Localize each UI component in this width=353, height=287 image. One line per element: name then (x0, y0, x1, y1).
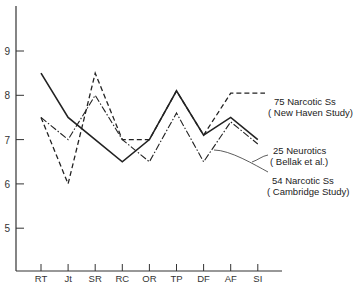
y-tick-label: 8 (4, 90, 10, 101)
y-tick-label: 6 (4, 179, 10, 190)
y-tick-label: 5 (4, 223, 10, 234)
x-tick-label: RC (115, 273, 129, 284)
series-lines (41, 73, 265, 184)
legend-new-haven: 75 Narcotic Ss ( New Haven Study) (268, 96, 353, 118)
x-tick-label: Jt (64, 273, 72, 284)
series-line-solid (41, 73, 258, 162)
legend-cambridge-line2: ( Cambridge Study) (267, 186, 349, 197)
legend-cambridge-line1: 54 Narcotic Ss (267, 175, 349, 186)
x-tick-label: OR (142, 273, 156, 284)
x-tick-label: DF (197, 273, 210, 284)
leader-cambridge (214, 150, 268, 172)
y-tick-label: 9 (4, 46, 10, 57)
legend-bellak-line1: 25 Neurotics (270, 145, 328, 156)
x-tick-label: AF (225, 273, 237, 284)
x-tick-label: TP (170, 273, 182, 284)
x-tick-label: RT (35, 273, 48, 284)
x-ticks: RTJtSRRCORTPDFAFSI (35, 264, 263, 284)
leader-bellak (252, 155, 268, 162)
axes (16, 6, 282, 271)
legend-new-haven-line1: 75 Narcotic Ss (268, 96, 353, 107)
label-leader-lines (214, 150, 268, 172)
x-tick-label: SR (89, 273, 102, 284)
legend-new-haven-line2: ( New Haven Study) (268, 107, 353, 118)
y-ticks: 56789 (4, 46, 24, 234)
x-tick-label: SI (253, 273, 262, 284)
legend-bellak-line2: ( Bellak et al.) (270, 156, 328, 167)
y-tick-label: 7 (4, 135, 10, 146)
legend-cambridge: 54 Narcotic Ss ( Cambridge Study) (267, 175, 349, 197)
legend-bellak: 25 Neurotics ( Bellak et al.) (270, 145, 328, 167)
